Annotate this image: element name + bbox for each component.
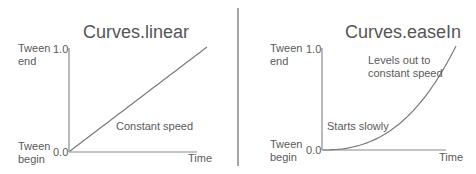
right-y-bottom-label: Tween begin [270, 138, 302, 164]
left-y-bottom-label: Tween begin [18, 140, 50, 166]
left-y-bottom-tick: 0.0 [53, 146, 68, 159]
right-x-label: Time [439, 151, 463, 164]
right-annotation-top: Levels out to constant speed [368, 54, 443, 80]
left-title: Curves.linear [83, 22, 189, 42]
left-y-top-tick: 1.0 [53, 43, 68, 56]
right-y-top-label: Tween end [270, 42, 302, 68]
left-x-label: Time [188, 152, 212, 165]
right-y-top-tick: 1.0 [306, 43, 321, 56]
right-y-bottom-tick: 0.0 [306, 144, 321, 157]
left-annotation: Constant speed [116, 120, 193, 133]
right-annotation-bottom: Starts slowly [327, 120, 389, 133]
right-title: Curves.easeIn [345, 22, 461, 42]
left-linear-curve [70, 47, 207, 151]
left-y-top-label: Tween end [18, 42, 50, 68]
